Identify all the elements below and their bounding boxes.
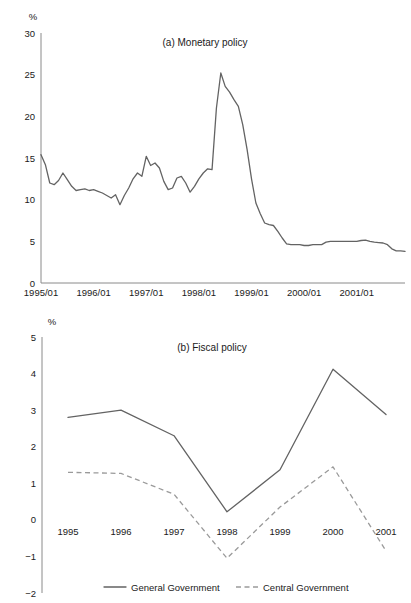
series-line-interest-rate [41,73,405,251]
y-tick-label: 1 [31,478,36,489]
panel-title-monetary: (a) Monetary policy [162,37,247,48]
x-tick-label: 1998/01 [182,287,216,298]
x-tick-label: 1996/01 [76,287,110,298]
chart-panel-monetary-policy: %0510152025301995/011996/011997/011998/0… [0,0,411,305]
y-tick-label: −2 [25,588,36,599]
monetary-policy-chart: %0510152025301995/011996/011997/011998/0… [0,0,411,305]
panel-title-fiscal: (b) Fiscal policy [177,342,246,353]
y-tick-label: 30 [24,28,35,39]
x-tick-label: 1998 [216,526,237,537]
chart-panel-fiscal-policy: %−2−10123451995199619971998199920002001(… [0,305,411,603]
series-line-central-government [68,467,386,558]
x-tick-label: 1996 [110,526,131,537]
x-tick-label: 2000 [322,526,343,537]
y-tick-label: 25 [24,69,35,80]
x-tick-label: 1999 [269,526,290,537]
y-tick-label: 5 [30,236,35,247]
y-tick-label: 20 [24,111,35,122]
y-tick-label: 0 [31,514,36,525]
figure-container: %0510152025301995/011996/011997/011998/0… [0,0,411,603]
x-tick-label: 2001/01 [340,287,374,298]
y-axis-unit-label: % [48,316,57,327]
y-tick-label: −1 [25,551,36,562]
x-tick-label: 1995/01 [24,287,58,298]
y-tick-label: 3 [31,405,36,416]
y-tick-label: 4 [31,368,36,379]
x-tick-label: 1997 [163,526,184,537]
y-tick-label: 5 [31,332,36,343]
y-tick-label: 15 [24,153,35,164]
fiscal-policy-chart: %−2−10123451995199619971998199920002001(… [0,305,411,603]
x-tick-label: 2001 [375,526,396,537]
legend-label-general-government: General Government [131,582,220,593]
y-tick-label: 10 [24,194,35,205]
y-axis-unit-label: % [29,11,38,22]
legend-label-central-government: Central Government [263,582,349,593]
x-tick-label: 1999/01 [234,287,268,298]
x-tick-label: 1995 [57,526,78,537]
x-tick-label: 1997/01 [129,287,163,298]
series-line-general-government [68,369,386,512]
y-tick-label: 2 [31,441,36,452]
x-tick-label: 2000/01 [287,287,321,298]
